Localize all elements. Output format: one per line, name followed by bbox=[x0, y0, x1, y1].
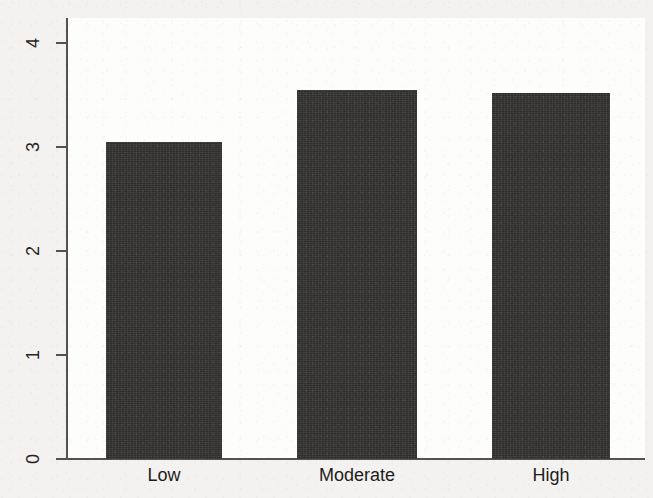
bar-chart-figure: 43210 LowModerateHigh bbox=[0, 0, 653, 498]
y-tick-label: 3 bbox=[16, 137, 50, 157]
y-tick-label-text: 2 bbox=[24, 246, 42, 256]
y-axis-line bbox=[66, 18, 68, 460]
y-tick-label-text: 1 bbox=[24, 350, 42, 360]
bar-low bbox=[106, 142, 222, 459]
x-axis-label-moderate: Moderate bbox=[297, 466, 417, 484]
y-tick-label: 1 bbox=[16, 345, 50, 365]
y-tick-label-text: 3 bbox=[24, 142, 42, 152]
y-tick-mark bbox=[56, 354, 66, 356]
bar-high bbox=[492, 93, 610, 459]
bar-moderate bbox=[297, 90, 417, 459]
y-tick-mark bbox=[56, 250, 66, 252]
y-tick-label-text: 0 bbox=[24, 454, 42, 464]
y-tick-mark bbox=[56, 146, 66, 148]
y-tick-label: 4 bbox=[16, 33, 50, 53]
x-axis-label-high: High bbox=[492, 466, 610, 484]
y-tick-mark bbox=[56, 42, 66, 44]
y-tick-label-text: 4 bbox=[24, 38, 42, 48]
y-tick-label: 0 bbox=[16, 449, 50, 469]
y-tick-label: 2 bbox=[16, 241, 50, 261]
y-tick-mark bbox=[56, 458, 66, 460]
x-axis-label-low: Low bbox=[106, 466, 222, 484]
